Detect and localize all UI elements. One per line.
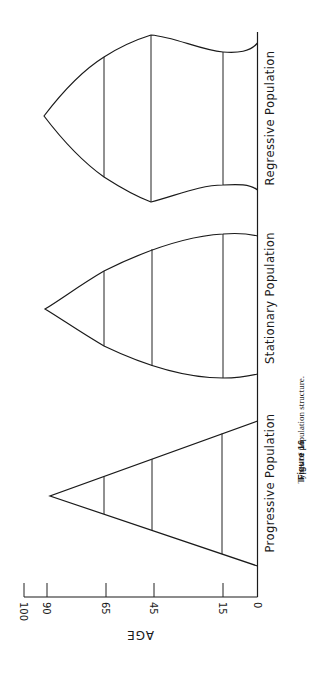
progressive-pyramid xyxy=(50,421,258,566)
tick-90: 90 xyxy=(41,602,52,615)
axis-title: AGE xyxy=(126,628,154,642)
tick-65: 65 xyxy=(100,602,111,615)
age-axis: 100 90 65 45 15 0 AGE xyxy=(18,583,263,642)
tick-45: 45 xyxy=(148,602,159,615)
caption-text: Types of population structure. xyxy=(296,376,306,484)
label-regressive: Regressive Population xyxy=(263,51,277,186)
regressive-pyramid xyxy=(44,35,258,202)
population-structure-figure: 100 90 65 45 15 0 AGE Progressive Popula… xyxy=(0,0,313,683)
tick-0: 0 xyxy=(252,602,263,608)
label-progressive: Progressive Population xyxy=(263,413,277,552)
tick-100: 100 xyxy=(18,602,29,621)
label-stationary: Stationary Population xyxy=(263,232,277,364)
tick-15: 15 xyxy=(217,602,228,615)
stationary-pyramid xyxy=(45,233,258,378)
